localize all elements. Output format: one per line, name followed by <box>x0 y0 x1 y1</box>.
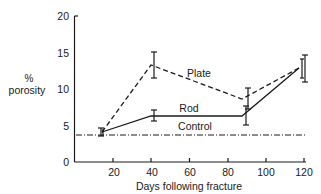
ytick-5: 5 <box>63 120 69 132</box>
plate-label: Plate <box>187 67 211 79</box>
xtick-100: 100 <box>257 166 275 178</box>
ytick-10: 10 <box>57 83 69 95</box>
axes <box>75 16 307 162</box>
y-axis-title-porosity: porosity <box>9 84 47 96</box>
xtick-120: 120 <box>295 166 313 178</box>
ytick-15: 15 <box>57 47 69 59</box>
xtick-20: 20 <box>108 166 120 178</box>
rod-label: Rod <box>179 102 198 114</box>
ytick-20: 20 <box>57 10 69 22</box>
porosity-chart: 20 15 10 5 0 20 40 60 80 100 120 % poros… <box>0 0 321 194</box>
xtick-60: 60 <box>184 166 196 178</box>
xtick-80: 80 <box>222 166 234 178</box>
y-tick-labels: 20 15 10 5 0 <box>57 10 69 168</box>
x-tick-labels: 20 40 60 80 100 120 <box>108 166 313 178</box>
ytick-0: 0 <box>63 156 69 168</box>
y-axis-title-percent: % <box>25 73 34 84</box>
x-axis-title: Days following fracture <box>136 180 242 192</box>
xtick-40: 40 <box>146 166 158 178</box>
control-label: Control <box>178 120 212 132</box>
